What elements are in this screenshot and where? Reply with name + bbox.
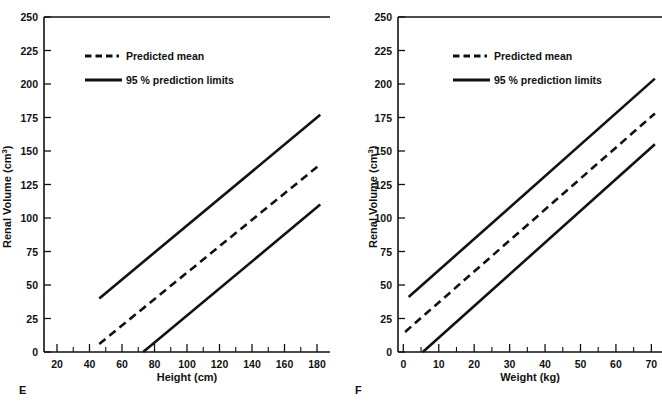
panel-f-ytick-label-200: 200 (374, 78, 392, 90)
panel-f-series (405, 79, 655, 352)
panel-f-ylabel-tail: ) (367, 145, 379, 149)
panel-e-ytick-label-50: 50 (26, 279, 38, 291)
panel-f-x-ticklabels: 010203040506070 (400, 358, 657, 370)
panel-e-ytick-label-150: 150 (20, 145, 38, 157)
panel-e-xtick-label-180: 180 (308, 358, 326, 370)
panel-f-ytick-label-175: 175 (374, 112, 392, 124)
panel-e-xtick-label-120: 120 (211, 358, 229, 370)
panel-e-x-ticklabels: 20406080100120140160180 (51, 358, 326, 370)
panel-e-ylabel-tail: ) (1, 145, 13, 149)
panel-f-xtick-label-20: 20 (468, 358, 480, 370)
panel-f-x-ticks (403, 344, 651, 352)
panel-e-series-1 (99, 164, 320, 344)
panel-e-xtick-label-80: 80 (149, 358, 161, 370)
panel-e-ytick-label-250: 250 (20, 11, 38, 23)
panel-e-ytick-label-200: 200 (20, 78, 38, 90)
panel-f-xtick-label-10: 10 (433, 358, 445, 370)
panel-e-y-ticks (44, 17, 51, 352)
panel-f-xtick-label-60: 60 (610, 358, 622, 370)
panel-f-y-ticks (398, 17, 405, 352)
panel-e-ytick-label-100: 100 (20, 212, 38, 224)
panel-e-ytick-label-125: 125 (20, 179, 38, 191)
panel-f-xtick-label-30: 30 (504, 358, 516, 370)
panel-f-legend-label-mean: Predicted mean (494, 50, 572, 62)
panel-e: 0255075100125150175200225250 20406080100… (0, 11, 330, 383)
panel-f-legend-label-limits: 95 % prediction limits (494, 74, 602, 86)
panel-e-legend: Predicted mean 95 % prediction limits (85, 50, 234, 86)
panel-e-ylabel-text: Renal Volume (cm (1, 153, 13, 248)
panel-f-xtick-label-50: 50 (575, 358, 587, 370)
panel-f-ytick-label-250: 250 (374, 11, 392, 23)
panel-f-xtick-label-40: 40 (539, 358, 551, 370)
panel-f: 0255075100125150175200225250 01020304050… (366, 11, 662, 383)
panel-e-ytick-label-225: 225 (20, 45, 38, 57)
panel-f-xlabel: Weight (kg) (500, 371, 560, 383)
panel-f-ytick-label-75: 75 (380, 246, 392, 258)
panel-f-xtick-label-0: 0 (400, 358, 406, 370)
panel-e-xtick-label-160: 160 (276, 358, 294, 370)
panel-e-ytick-label-175: 175 (20, 112, 38, 124)
panel-f-series-0 (409, 79, 655, 297)
figure-root: 0255075100125150175200225250 20406080100… (0, 0, 662, 415)
panel-e-series-0 (99, 115, 320, 299)
panel-e-ytick-label-0: 0 (32, 346, 38, 358)
panel-e-xtick-label-60: 60 (116, 358, 128, 370)
panel-e-series-2 (143, 205, 320, 352)
panel-e-axes (44, 17, 330, 352)
panel-f-ytick-label-50: 50 (380, 279, 392, 291)
panel-e-y-ticklabels: 0255075100125150175200225250 (20, 11, 38, 358)
panel-f-ylabel-text: Renal Volume (cm (367, 153, 379, 248)
panel-f-ylabel: Renal Volume (cm3) (366, 145, 379, 248)
panel-f-ytick-label-0: 0 (386, 346, 392, 358)
panel-f-series-1 (405, 113, 655, 331)
panel-f-xtick-label-70: 70 (646, 358, 658, 370)
panel-e-ytick-label-75: 75 (26, 246, 38, 258)
panel-e-xtick-label-140: 140 (243, 358, 261, 370)
panel-f-series-2 (423, 144, 655, 352)
panel-e-ylabel: Renal Volume (cm3) (0, 145, 13, 248)
panel-letter-f: F (355, 384, 362, 396)
svg-text:Renal Volume (cm3): Renal Volume (cm3) (0, 145, 13, 248)
panel-f-legend: Predicted mean 95 % prediction limits (453, 50, 602, 86)
panel-e-xlabel: Height (cm) (157, 371, 218, 383)
svg-text:Renal Volume (cm3): Renal Volume (cm3) (366, 145, 379, 248)
panel-e-legend-label-limits: 95 % prediction limits (126, 74, 234, 86)
panel-f-ytick-label-225: 225 (374, 45, 392, 57)
panel-e-x-ticks (57, 344, 317, 352)
panel-e-xtick-label-40: 40 (84, 358, 96, 370)
panel-e-legend-label-mean: Predicted mean (126, 50, 204, 62)
panel-letter-e: E (19, 384, 27, 396)
panel-e-ytick-label-25: 25 (26, 313, 38, 325)
panel-e-series (99, 115, 320, 352)
panel-e-xtick-label-20: 20 (51, 358, 63, 370)
panel-e-xtick-label-100: 100 (178, 358, 196, 370)
panel-f-ytick-label-25: 25 (380, 313, 392, 325)
